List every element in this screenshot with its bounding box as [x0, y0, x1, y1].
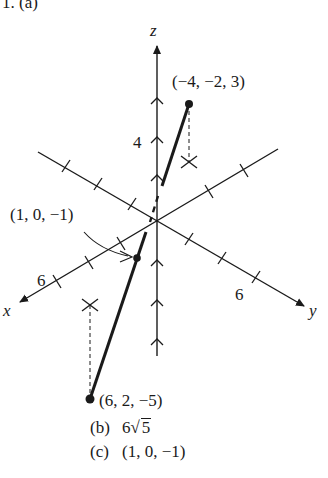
point-p2: [86, 395, 95, 404]
x-axis: [20, 149, 278, 302]
point-p1-label: (−4, −2, 3): [172, 73, 245, 90]
y-axis: [38, 152, 304, 306]
coordinate-diagram: [0, 0, 328, 478]
answer-b-radicand: 5: [141, 418, 152, 437]
sqrt-symbol-icon: √: [131, 418, 140, 437]
point-midpoint-label: (1, 0, −1): [10, 206, 73, 223]
point-p2-label: (6, 2, −5): [99, 392, 162, 409]
projection-p1: [181, 104, 197, 168]
y-tick-label: 6: [235, 286, 244, 303]
x-tick-label: 6: [37, 272, 46, 289]
answer-c: (c)(1, 0, −1): [90, 442, 185, 462]
answer-b-tag: (b): [90, 418, 122, 438]
answer-c-value: (1, 0, −1): [122, 442, 185, 461]
x-axis-label: x: [3, 302, 11, 319]
answer-c-tag: (c): [90, 442, 122, 462]
z-axis-label: z: [150, 22, 157, 39]
answer-b: (b)6√5: [90, 418, 151, 438]
point-p1: [185, 100, 193, 108]
x-axis-ticks: [53, 164, 248, 288]
answer-b-coefficient: 6: [122, 418, 131, 437]
point-midpoint: [133, 254, 141, 262]
midpoint-leader: [84, 232, 132, 262]
z-tick-label: 4: [133, 134, 142, 151]
y-axis-label: y: [309, 302, 317, 319]
